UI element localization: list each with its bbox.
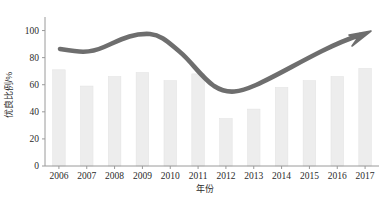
- bar: [164, 81, 177, 166]
- bar: [192, 74, 205, 166]
- bar: [220, 119, 233, 166]
- x-axis-tick-label: 2012: [216, 171, 235, 181]
- y-axis-title: 优良比例/%: [3, 72, 14, 119]
- y-axis-tick-label: 20: [30, 134, 40, 144]
- x-axis-tick-label: 2010: [161, 171, 180, 181]
- x-axis-tick-label: 2008: [105, 171, 124, 181]
- x-axis-tick-label: 2009: [133, 171, 152, 181]
- y-axis-tick-label: 0: [34, 161, 39, 171]
- x-axis-tick-label: 2013: [244, 171, 263, 181]
- bar-chart-with-trend-arrow: 020406080100 200620072008200920102011201…: [0, 0, 384, 201]
- x-axis-tick-label: 2017: [356, 171, 375, 181]
- y-axis-tick-label: 100: [25, 26, 40, 36]
- x-axis-tick-label: 2007: [77, 171, 96, 181]
- bar: [247, 109, 260, 166]
- bar: [80, 86, 93, 166]
- bar: [331, 77, 344, 166]
- bar: [275, 87, 288, 166]
- bar: [136, 73, 149, 166]
- bar: [359, 68, 372, 166]
- x-axis-tick-label: 2006: [49, 171, 68, 181]
- x-axis-title: 年份: [196, 183, 214, 194]
- x-axis-tick-label: 2016: [328, 171, 347, 181]
- x-axis-tick-label: 2015: [300, 171, 319, 181]
- bar: [303, 81, 316, 166]
- bar: [108, 77, 121, 166]
- x-axis-tick-label: 2014: [272, 171, 291, 181]
- y-axis-tick-label: 80: [30, 53, 40, 63]
- chart-container: 020406080100 200620072008200920102011201…: [0, 0, 384, 201]
- y-axis-tick-label: 40: [30, 107, 40, 117]
- bar: [53, 70, 66, 166]
- x-axis-tick-label: 2011: [189, 171, 208, 181]
- y-axis-tick-label: 60: [30, 80, 40, 90]
